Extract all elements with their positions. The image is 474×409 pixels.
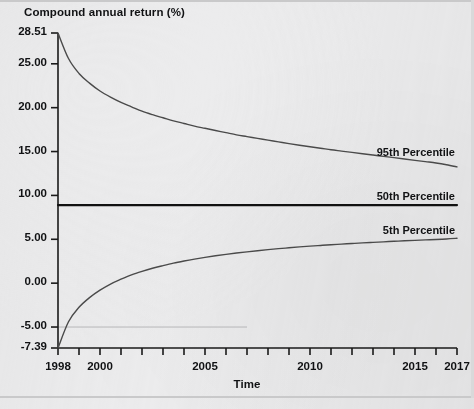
x-tick-label: 2000 bbox=[74, 360, 126, 372]
series-label-50th-percentile: 50th Percentile bbox=[320, 190, 455, 202]
y-tick-label: 0.00 bbox=[0, 275, 47, 287]
series-label-95th-percentile: 95th Percentile bbox=[320, 146, 455, 158]
y-tick-label: 28.51 bbox=[0, 25, 47, 37]
x-tick-label: 2010 bbox=[284, 360, 336, 372]
series-line-5th-percentile bbox=[58, 238, 457, 348]
chart-figure: Compound annual return (%) 28.5125.0020.… bbox=[0, 0, 474, 409]
x-tick-label: 2017 bbox=[431, 360, 474, 372]
series-label-5th-percentile: 5th Percentile bbox=[320, 224, 455, 236]
y-tick-label: 20.00 bbox=[0, 100, 47, 112]
y-tick-label: 5.00 bbox=[0, 231, 47, 243]
x-tick-label: 2005 bbox=[179, 360, 231, 372]
plot-area bbox=[0, 0, 474, 409]
y-tick-label: 25.00 bbox=[0, 56, 47, 68]
x-axis-title: Time bbox=[0, 378, 474, 390]
y-tick-label: 10.00 bbox=[0, 187, 47, 199]
y-tick-label: -7.39 bbox=[0, 340, 47, 352]
y-tick-label: -5.00 bbox=[0, 319, 47, 331]
y-tick-label: 15.00 bbox=[0, 144, 47, 156]
